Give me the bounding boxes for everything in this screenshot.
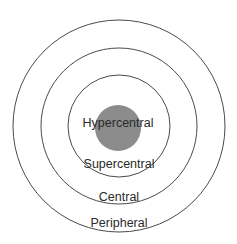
concentric-circle-diagram: Hypercentral Supercentral Central Periph… — [0, 0, 237, 244]
central-label: Central — [99, 190, 139, 204]
peripheral-label: Peripheral — [91, 216, 148, 230]
supercentral-label: Supercentral — [84, 157, 155, 171]
hypercentral-label: Hypercentral — [83, 116, 154, 130]
